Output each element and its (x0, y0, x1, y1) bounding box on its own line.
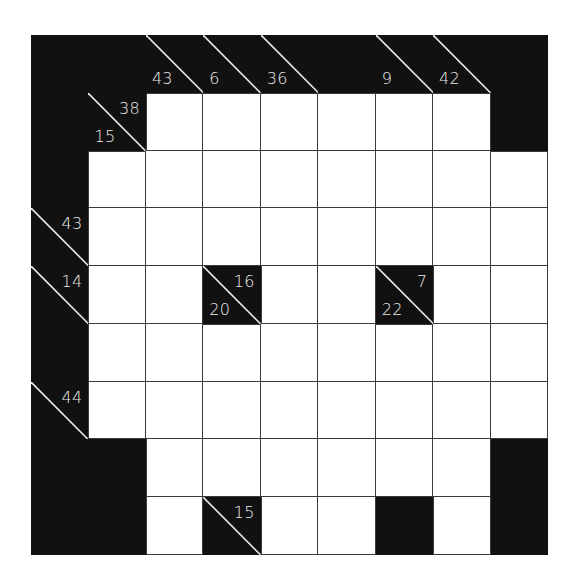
clue-cell: 9 (376, 35, 433, 93)
entry-cell-r3-c2[interactable] (146, 208, 203, 266)
entry-cell-r5-c5[interactable] (318, 324, 375, 382)
entry-cell-r6-c2[interactable] (146, 382, 203, 440)
block-cell (31, 439, 88, 497)
across-clue: 14 (61, 272, 82, 291)
down-clue: 43 (152, 69, 173, 88)
entry-cell-r4-c8[interactable] (491, 266, 548, 324)
entry-cell-r2-c8[interactable] (491, 151, 548, 209)
entry-cell-r3-c6[interactable] (376, 208, 433, 266)
block-cell (31, 93, 88, 151)
entry-cell-r3-c4[interactable] (261, 208, 318, 266)
block-cell (491, 497, 548, 555)
entry-cell-r1-c3[interactable] (203, 93, 260, 151)
clue-cell: 42 (433, 35, 490, 93)
entry-cell-r3-c7[interactable] (433, 208, 490, 266)
clue-cell: 14 (31, 266, 88, 324)
entry-cell-r5-c8[interactable] (491, 324, 548, 382)
entry-cell-r1-c2[interactable] (146, 93, 203, 151)
kakuro-board: 436369423815431416207224415 (31, 35, 548, 555)
entry-cell-r7-c5[interactable] (318, 439, 375, 497)
clue-cell: 6 (203, 35, 260, 93)
entry-cell-r8-c2[interactable] (146, 497, 203, 555)
entry-cell-r8-c5[interactable] (318, 497, 375, 555)
entry-cell-r1-c7[interactable] (433, 93, 490, 151)
block-cell (491, 439, 548, 497)
entry-cell-r5-c3[interactable] (203, 324, 260, 382)
entry-cell-r6-c3[interactable] (203, 382, 260, 440)
entry-cell-r2-c4[interactable] (261, 151, 318, 209)
entry-cell-r7-c7[interactable] (433, 439, 490, 497)
block-cell (318, 35, 375, 93)
clue-cell: 43 (146, 35, 203, 93)
entry-cell-r3-c3[interactable] (203, 208, 260, 266)
entry-cell-r6-c8[interactable] (491, 382, 548, 440)
entry-cell-r6-c5[interactable] (318, 382, 375, 440)
entry-cell-r8-c4[interactable] (261, 497, 318, 555)
down-clue: 6 (209, 69, 219, 88)
entry-cell-r7-c3[interactable] (203, 439, 260, 497)
across-clue: 38 (119, 99, 140, 118)
entry-cell-r2-c3[interactable] (203, 151, 260, 209)
block-cell (31, 324, 88, 382)
entry-cell-r4-c1[interactable] (88, 266, 145, 324)
block-cell (31, 497, 88, 555)
entry-cell-r3-c1[interactable] (88, 208, 145, 266)
entry-cell-r4-c5[interactable] (318, 266, 375, 324)
entry-cell-r5-c7[interactable] (433, 324, 490, 382)
entry-cell-r1-c4[interactable] (261, 93, 318, 151)
entry-cell-r1-c5[interactable] (318, 93, 375, 151)
block-cell (31, 151, 88, 209)
entry-cell-r4-c7[interactable] (433, 266, 490, 324)
across-clue: 44 (61, 388, 82, 407)
across-clue: 43 (61, 214, 82, 233)
entry-cell-r5-c6[interactable] (376, 324, 433, 382)
entry-cell-r3-c5[interactable] (318, 208, 375, 266)
entry-cell-r6-c7[interactable] (433, 382, 490, 440)
block-cell (491, 35, 548, 93)
block-cell (31, 35, 88, 93)
clue-cell: 3815 (88, 93, 145, 151)
entry-cell-r2-c6[interactable] (376, 151, 433, 209)
entry-cell-r6-c6[interactable] (376, 382, 433, 440)
block-cell (88, 497, 145, 555)
across-clue: 7 (417, 272, 427, 291)
entry-cell-r2-c2[interactable] (146, 151, 203, 209)
entry-cell-r2-c5[interactable] (318, 151, 375, 209)
entry-cell-r5-c4[interactable] (261, 324, 318, 382)
block-cell (491, 93, 548, 151)
entry-cell-r2-c1[interactable] (88, 151, 145, 209)
entry-cell-r5-c1[interactable] (88, 324, 145, 382)
clue-cell: 36 (261, 35, 318, 93)
block-cell (88, 35, 145, 93)
entry-cell-r7-c6[interactable] (376, 439, 433, 497)
block-cell (376, 497, 433, 555)
down-clue: 20 (209, 300, 230, 319)
down-clue: 9 (382, 69, 392, 88)
down-clue: 15 (94, 127, 115, 146)
entry-cell-r6-c1[interactable] (88, 382, 145, 440)
clue-cell: 43 (31, 208, 88, 266)
clue-cell: 44 (31, 382, 88, 440)
clue-cell: 15 (203, 497, 260, 555)
entry-cell-r3-c8[interactable] (491, 208, 548, 266)
entry-cell-r7-c2[interactable] (146, 439, 203, 497)
entry-cell-r8-c7[interactable] (433, 497, 490, 555)
down-clue: 36 (267, 69, 288, 88)
clue-cell: 1620 (203, 266, 260, 324)
down-clue: 42 (439, 69, 460, 88)
entry-cell-r2-c7[interactable] (433, 151, 490, 209)
block-cell (88, 439, 145, 497)
clue-cell: 722 (376, 266, 433, 324)
entry-cell-r4-c4[interactable] (261, 266, 318, 324)
down-clue: 22 (382, 300, 403, 319)
entry-cell-r5-c2[interactable] (146, 324, 203, 382)
entry-cell-r7-c4[interactable] (261, 439, 318, 497)
entry-cell-r6-c4[interactable] (261, 382, 318, 440)
across-clue: 15 (234, 503, 255, 522)
entry-cell-r1-c6[interactable] (376, 93, 433, 151)
entry-cell-r4-c2[interactable] (146, 266, 203, 324)
across-clue: 16 (234, 272, 255, 291)
